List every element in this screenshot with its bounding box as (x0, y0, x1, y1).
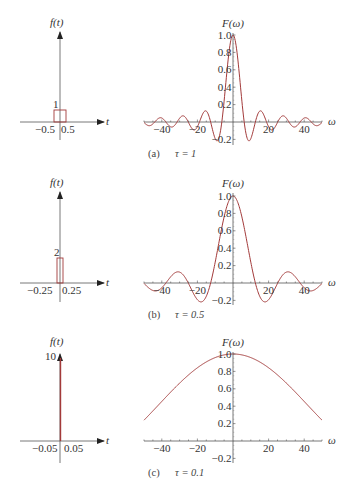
x-tick-label: −20 (189, 123, 207, 135)
Fw-ylabel: F(ω) (221, 177, 244, 190)
y-tick-label: 0.8 (218, 365, 232, 377)
y-tick-label: 0.4 (218, 242, 232, 254)
pulse-height-label: 10 (45, 350, 57, 362)
x-tick-label: −20 (189, 442, 207, 454)
w-xlabel: ω (328, 276, 336, 288)
caption-letter: (a) (148, 148, 160, 160)
left-tick-label: −0.25 (27, 284, 53, 296)
pulse-height-label: 1 (53, 98, 59, 110)
ft-plot-a: f(t) t 1 −0.5 0.5 (20, 16, 110, 140)
caption-tau: τ = 0.5 (175, 309, 204, 320)
panel-c: f(t) t 10 −0.05 0.05 F(ω) ω (c) τ = 0.1 … (20, 335, 336, 479)
ft-plot-b: f(t) t 2 −0.25 0.25 (20, 176, 110, 302)
y-tick-label: 1.0 (218, 348, 232, 360)
x-tick-label: 20 (263, 284, 275, 296)
y-tick-label: 0.2 (218, 417, 232, 429)
y-tick-label: 0.6 (218, 224, 232, 236)
y-tick-label: 0.6 (218, 382, 232, 394)
ft-plot-c: f(t) t 10 −0.05 0.05 (20, 335, 110, 463)
x-tick-label: −20 (189, 284, 207, 296)
right-tick-label: 0.05 (64, 442, 84, 454)
y-tick-label: 0.2 (218, 259, 232, 271)
x-tick-label: −40 (153, 442, 171, 454)
y-tick-label: 0.4 (218, 81, 232, 93)
x-tick-label: 40 (299, 284, 311, 296)
caption-tau: τ = 0.1 (175, 467, 204, 478)
y-tick-label: −0.2 (212, 452, 232, 464)
y-tick-label: 1.0 (218, 29, 232, 41)
left-tick-label: −0.5 (35, 123, 55, 135)
x-tick-label: 20 (263, 123, 275, 135)
x-tick-label: 40 (299, 123, 311, 135)
y-tick-label: 0.8 (218, 46, 232, 58)
t-xlabel: t (106, 434, 110, 446)
right-tick-label: 0.5 (61, 123, 75, 135)
x-tick-label: 40 (299, 442, 311, 454)
caption-letter: (b) (148, 309, 161, 321)
Fw-plot-a: F(ω) ω (a) τ = 1 −40−2020401.00.80.60.40… (144, 17, 336, 160)
x-tick-label: −40 (153, 123, 171, 135)
t-xlabel: t (106, 276, 110, 288)
caption-letter: (c) (148, 467, 160, 479)
panel-a: f(t) t 1 −0.5 0.5 F(ω) ω (a) τ = 1 −40−2… (20, 16, 336, 160)
y-tick-label: 0.8 (218, 207, 232, 219)
ft-ylabel: f(t) (50, 16, 64, 29)
y-tick-label: 0.2 (218, 98, 232, 110)
right-tick-label: 0.25 (62, 284, 82, 296)
figure-canvas: f(t) t 1 −0.5 0.5 F(ω) ω (a) τ = 1 −40−2… (0, 0, 354, 501)
Fw-plot-b: F(ω) ω (b) τ = 0.5 −40−2020401.00.80.60.… (144, 177, 336, 321)
left-tick-label: −0.05 (32, 442, 58, 454)
t-xlabel: t (106, 115, 110, 127)
y-tick-label: 0.4 (218, 400, 232, 412)
x-tick-label: −40 (153, 284, 171, 296)
Fw-plot-c: F(ω) ω (c) τ = 0.1 −40−2020401.00.80.60.… (144, 336, 336, 479)
panel-b: f(t) t 2 −0.25 0.25 F(ω) ω (b) τ = 0.5 −… (20, 176, 336, 321)
y-tick-label: −0.2 (212, 294, 232, 306)
y-tick-label: −0.2 (212, 133, 232, 145)
ft-ylabel: f(t) (50, 176, 64, 189)
y-tick-label: 0.6 (218, 63, 232, 75)
ft-ylabel: f(t) (50, 335, 64, 348)
caption-tau: τ = 1 (175, 148, 196, 159)
w-xlabel: ω (328, 115, 336, 127)
w-xlabel: ω (328, 434, 336, 446)
y-tick-label: 1.0 (218, 190, 232, 202)
x-tick-label: 20 (263, 442, 275, 454)
pulse-height-label: 2 (54, 246, 60, 258)
